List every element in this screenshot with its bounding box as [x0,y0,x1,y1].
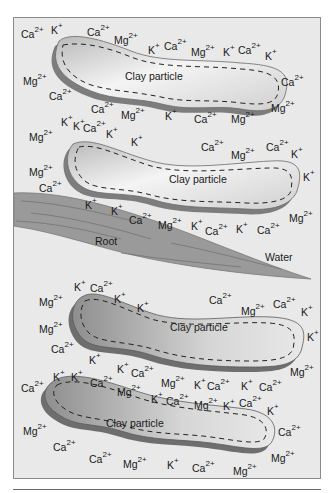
ion-mg: Mg2+ [271,451,295,463]
ion-mg: Mg2+ [241,304,265,316]
clay-particle-label-3: Clay particle [170,321,228,333]
ion-ca: Ca2+ [273,297,296,309]
ion-k: K+ [111,204,123,216]
ion-k: K+ [114,292,126,304]
ion-ca: Ca2+ [238,43,261,55]
ion-k: K+ [51,23,63,35]
ion-k: K+ [74,280,86,292]
ion-k: K+ [241,379,253,391]
clay-particle-label-2: Clay particle [169,173,227,185]
ion-k: K+ [151,392,163,404]
ion-mg: Mg2+ [121,108,145,120]
ion-ca: Ca2+ [201,140,224,152]
ion-mg: Mg2+ [39,295,63,307]
ion-k: K+ [53,370,65,382]
ion-k: K+ [223,399,235,411]
ion-k: K+ [167,458,179,470]
ion-mg: Mg2+ [231,148,255,160]
ion-ca: Ca2+ [51,342,74,354]
ion-mg: Mg2+ [271,101,295,113]
ion-k: K+ [165,109,177,121]
ion-ca: Ca2+ [194,112,217,124]
ion-ca: Ca2+ [91,102,114,114]
ion-k: K+ [191,219,203,231]
ion-ca: Ca2+ [53,440,76,452]
diagram-frame: Clay particle Clay particle Clay particl… [13,17,321,479]
ion-mg: Mg2+ [289,211,313,223]
ion-ca: Ca2+ [90,281,113,293]
ion-k: K+ [137,301,149,313]
ion-ca: Ca2+ [83,121,106,133]
ion-ca: Ca2+ [239,396,262,408]
ion-k: K+ [303,170,315,182]
ion-ca: Ca2+ [209,293,232,305]
ion-k: K+ [71,370,83,382]
ion-ca: Ca2+ [90,376,113,388]
ion-ca: Ca2+ [205,224,228,236]
ion-k: K+ [85,198,97,210]
bottom-divider [13,489,321,490]
ion-mg: Mg2+ [123,457,147,469]
ion-k: K+ [267,404,279,416]
ion-mg: Mg2+ [158,218,182,230]
ion-ca: Ca2+ [21,381,44,393]
ion-mg: Mg2+ [23,74,47,86]
ion-ca: Ca2+ [131,366,154,378]
ion-mg: Mg2+ [23,424,47,436]
ion-mg: Mg2+ [191,45,215,57]
ion-ca: Ca2+ [49,89,72,101]
root-label: Root [95,235,117,247]
ion-mg: Mg2+ [39,322,63,334]
ion-k: K+ [291,147,303,159]
ion-k: K+ [307,330,319,342]
ion-k: K+ [89,353,101,365]
ion-k: K+ [106,127,118,139]
ion-ca: Ca2+ [281,75,304,87]
clay-particle-label-4: Clay particle [106,417,164,429]
ion-k: K+ [236,222,248,234]
ion-ca: Ca2+ [39,181,62,193]
ion-ca: Ca2+ [192,461,215,473]
ion-ca: Ca2+ [87,25,110,37]
ion-mg: Mg2+ [114,33,138,45]
ion-mg: Mg2+ [29,130,53,142]
ion-ca: Ca2+ [278,425,301,437]
ion-k: K+ [131,135,143,147]
ion-ca: Ca2+ [259,380,282,392]
ion-k: K+ [117,362,129,374]
ion-mg: Mg2+ [233,464,257,476]
ion-mg: Mg2+ [117,385,141,397]
ion-ca: Ca2+ [166,394,189,406]
ion-k: K+ [301,305,313,317]
ion-ca: Ca2+ [129,213,152,225]
ion-mg: Mg2+ [194,398,218,410]
ion-ca: Ca2+ [21,27,44,39]
ion-ca: Ca2+ [89,452,112,464]
ion-k: K+ [194,378,206,390]
ion-k: K+ [148,43,160,55]
water-label: Water [265,251,293,263]
ion-k: K+ [61,115,73,127]
ion-mg: Mg2+ [290,365,314,377]
ion-mg: Mg2+ [161,376,185,388]
clay-particle-label-1: Clay particle [125,70,183,82]
ion-ca: Ca2+ [266,140,289,152]
ion-k: K+ [265,49,277,61]
ion-ca: Ca2+ [207,379,230,391]
ion-mg: Mg2+ [29,165,53,177]
ion-ca: Ca2+ [257,223,280,235]
ion-k: K+ [223,45,235,57]
ion-ca: Ca2+ [164,39,187,51]
ion-mg: Mg2+ [231,112,255,124]
